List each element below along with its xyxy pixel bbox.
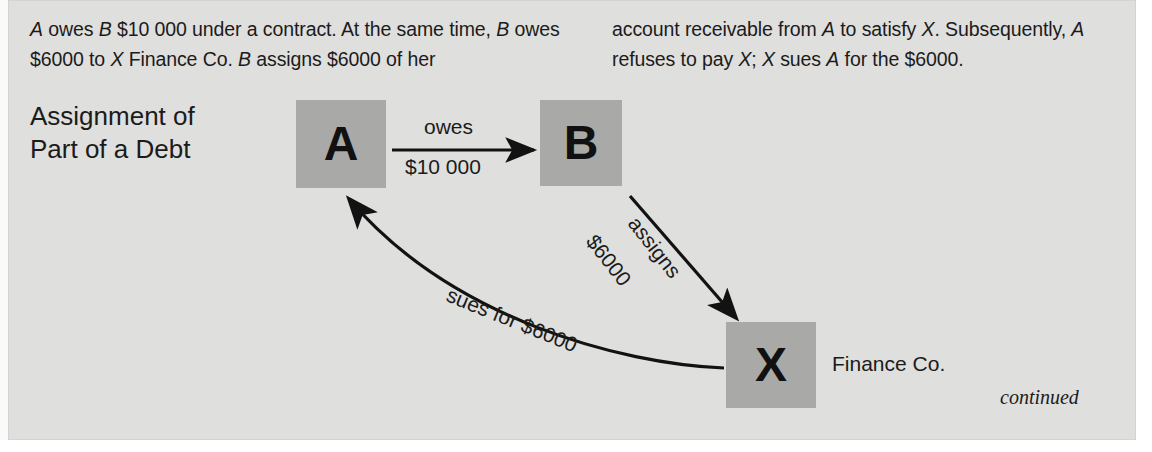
figure-title-line-2: Part of a Debt: [30, 134, 190, 164]
intro-paragraph-right-column: account receivable from A to satisfy X. …: [612, 14, 1132, 74]
node-label-x: X: [755, 341, 787, 389]
figure-title: Assignment of Part of a Debt: [30, 100, 290, 166]
continued-note: continued: [1000, 386, 1079, 409]
page-bottom-margin: [0, 440, 1152, 452]
node-label-b: B: [564, 119, 599, 167]
page-left-margin: [0, 0, 8, 452]
node-box-a: A: [296, 100, 386, 188]
figure-page: A owes B $10 000 under a contract. At th…: [0, 0, 1152, 452]
edge-label-owes-amount: $10 000: [405, 155, 481, 179]
node-label-a: A: [324, 120, 359, 168]
node-box-x: X: [726, 322, 816, 408]
intro-paragraph-left-column: A owes B $10 000 under a contract. At th…: [30, 14, 590, 74]
edge-label-owes: owes: [424, 115, 473, 139]
page-right-margin: [1136, 0, 1152, 452]
node-box-b: B: [540, 100, 622, 186]
node-caption-finance-co: Finance Co.: [832, 352, 945, 376]
figure-title-line-1: Assignment of: [30, 101, 195, 131]
